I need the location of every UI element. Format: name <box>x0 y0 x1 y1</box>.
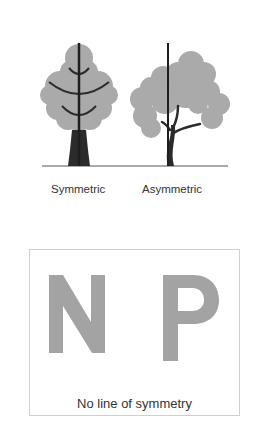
letters-panel: No line of symmetry <box>29 249 240 416</box>
trees-svg <box>0 0 260 220</box>
symmetric-tree <box>40 43 118 166</box>
symmetric-label: Symmetric <box>51 183 105 195</box>
letters-svg <box>30 250 241 417</box>
asymmetric-tree <box>130 43 230 166</box>
letters-caption: No line of symmetry <box>30 396 239 411</box>
letter-p <box>163 275 219 361</box>
letter-n <box>49 275 105 353</box>
trees-illustration <box>0 0 260 220</box>
asymmetric-canopy <box>130 51 230 138</box>
asymmetric-label: Asymmetric <box>142 183 202 195</box>
